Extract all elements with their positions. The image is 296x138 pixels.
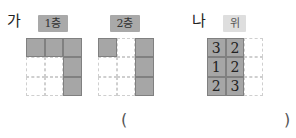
grid-cell: 2 (207, 77, 226, 96)
answer-blank[interactable] (135, 110, 280, 130)
grid-cell (117, 57, 136, 76)
top-view-grid: 321223 (207, 38, 263, 96)
grid-cell: 2 (226, 38, 245, 57)
grid-cell (63, 77, 82, 96)
answer-open-paren: ( (121, 110, 127, 129)
floor-1-tag: 1층 (38, 15, 68, 32)
grid-cell (45, 57, 64, 76)
grid-cell (63, 57, 82, 76)
grid-cell (98, 77, 117, 96)
grid-cell (26, 77, 45, 96)
grid-cell (244, 38, 263, 57)
grid-cell: 3 (207, 38, 226, 57)
grid-cell (244, 57, 263, 76)
grid-cell (135, 57, 154, 76)
grid-cell (45, 38, 64, 57)
grid-cell: 3 (226, 77, 245, 96)
floor-2-grid (98, 38, 154, 96)
grid-cell (26, 57, 45, 76)
grid-cell (135, 38, 154, 57)
floor-1-grid (26, 38, 82, 96)
grid-cell (117, 77, 136, 96)
grid-cell (63, 38, 82, 57)
grid-cell: 2 (226, 57, 245, 76)
grid-cell (98, 38, 117, 57)
grid-cell (135, 77, 154, 96)
grid-cell: 1 (207, 57, 226, 76)
figure-na-label: 나 (192, 14, 206, 29)
answer-close-paren: ) (284, 110, 290, 129)
grid-cell (45, 77, 64, 96)
grid-cell (117, 38, 136, 57)
grid-cell (244, 77, 263, 96)
top-view-tag: 위 (223, 15, 246, 32)
floor-2-tag: 2층 (110, 15, 140, 32)
figure-ga-label: 가 (7, 14, 21, 29)
grid-cell (26, 38, 45, 57)
grid-cell (98, 57, 117, 76)
